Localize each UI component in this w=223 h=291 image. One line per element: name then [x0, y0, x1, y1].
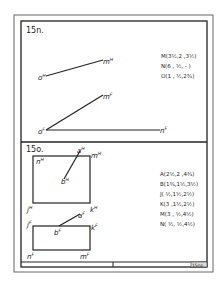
line-om-horizontal — [46, 60, 103, 76]
point-coordinate: A(2½,2 ,4¾) — [160, 171, 194, 177]
problem-15n: 15n. oH mH oF mF nF M(3½,2 ,3½) N(6 , ½,… — [26, 26, 196, 136]
label-mH: mH — [103, 57, 114, 66]
line-om-frontal — [46, 95, 103, 130]
point-coordinate: K(3 ,1½,2½) — [160, 201, 194, 207]
label-mH: mH — [91, 151, 102, 160]
label-mF: mF — [80, 252, 90, 261]
problem-label: 15o. — [26, 145, 43, 154]
point-coordinate: M(3 , ½,4½) — [160, 211, 194, 217]
label-aF: aF — [78, 211, 85, 220]
drawing-sheet: 15no 15n. oH mH oF mF nF M(3½,2 ,3½) N(6… — [0, 0, 223, 291]
label-bF: bF — [54, 228, 61, 237]
problem-15o: 15o. aH bH nH mH jH kH aF bF jF kF nF mF… — [26, 145, 198, 261]
label-bH: bH — [61, 177, 69, 186]
line-ab-horizontal — [64, 151, 80, 179]
label-kH: kH — [90, 205, 98, 214]
label-jH: jH — [26, 205, 33, 214]
problem-label: 15n. — [26, 26, 44, 35]
label-jF: jF — [26, 220, 32, 229]
point-coordinate: M(3½,2 ,3½) — [161, 53, 196, 59]
point-coordinate: N(6 , ½, - ) — [161, 63, 191, 69]
sheet-number: 15no — [192, 263, 204, 268]
point-coordinate: B(1¾,1½,3½) — [160, 181, 198, 187]
label-kF: kF — [91, 223, 98, 232]
rect-frontal — [33, 226, 90, 250]
label-oF: oF — [38, 127, 45, 136]
line-ab-frontal — [59, 214, 80, 226]
point-coordinate: N( ½, ½,4½) — [160, 221, 195, 227]
label-nF: nF — [27, 252, 34, 261]
point-coordinate: O(1 , ½,2¾) — [161, 73, 194, 79]
label-nF: nF — [160, 126, 167, 135]
label-nH: nH — [36, 157, 44, 166]
label-oH: oH — [38, 73, 46, 82]
point-coordinate: J( ½,1½,2½) — [159, 191, 194, 198]
label-mF: mF — [103, 92, 113, 101]
label-aH: aH — [77, 146, 85, 155]
